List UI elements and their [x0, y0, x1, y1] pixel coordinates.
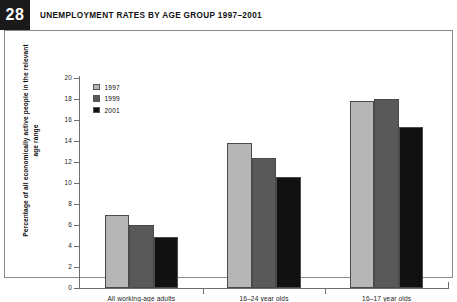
figure-header: 28 UNEMPLOYMENT RATES BY AGE GROUP 1997–… — [0, 0, 457, 30]
y-axis-tick-label-wrap: 14 — [46, 137, 72, 145]
y-axis-tick-label: 14 — [50, 137, 72, 144]
y-axis-tick-label: 8 — [50, 200, 72, 207]
chart-frame: Percentage of all economically active pe… — [4, 30, 453, 278]
y-axis-tick-label: 12 — [50, 158, 72, 165]
bar-all-working-age-adults-1999 — [129, 225, 154, 288]
x-axis-group-label: 16–24 year olds — [194, 295, 334, 302]
x-axis-separator-tick — [325, 288, 326, 294]
y-axis-tick-label: 10 — [50, 179, 72, 186]
bar-16–17-year-olds-1997 — [350, 101, 375, 288]
y-axis-tick-label: 18 — [50, 95, 72, 102]
x-axis-end-cap — [448, 282, 449, 289]
y-axis-tick-label: 0 — [50, 284, 72, 291]
x-axis-group-label: 16–17 year olds — [317, 295, 457, 302]
y-axis-tick-label: 4 — [50, 242, 72, 249]
bar-16–24-year-olds-1999 — [252, 158, 277, 288]
y-axis-tick-label: 16 — [50, 116, 72, 123]
bar-16–24-year-olds-2001 — [276, 177, 301, 288]
y-axis-tick-label-wrap: 18 — [46, 95, 72, 103]
y-axis-tick-label-wrap: 6 — [46, 221, 72, 229]
x-axis-start-cap — [79, 282, 80, 289]
y-axis-tick-label: 6 — [50, 221, 72, 228]
bar-16–24-year-olds-1997 — [227, 143, 252, 288]
y-axis-tick-label: 2 — [50, 263, 72, 270]
plot-area — [80, 78, 448, 288]
y-axis-tick-label-wrap: 0 — [46, 284, 72, 292]
y-axis-tick-label-wrap: 10 — [46, 179, 72, 187]
y-axis-tick-label-wrap: 4 — [46, 242, 72, 250]
y-axis-tick-label-wrap: 8 — [46, 200, 72, 208]
y-axis-tick-label-wrap: 12 — [46, 158, 72, 166]
x-axis-group-label: All working-age adults — [71, 295, 211, 302]
bar-all-working-age-adults-2001 — [154, 237, 179, 288]
y-axis-tick-label-wrap: 20 — [46, 74, 72, 82]
x-axis-separator-tick — [203, 288, 204, 294]
y-axis-tick-label-wrap: 16 — [46, 116, 72, 124]
bar-16–17-year-olds-2001 — [399, 127, 424, 288]
y-axis-tick-label: 20 — [50, 74, 72, 81]
page-title: UNEMPLOYMENT RATES BY AGE GROUP 1997–200… — [30, 0, 457, 30]
bar-all-working-age-adults-1997 — [105, 215, 130, 289]
y-axis-tick-label-wrap: 2 — [46, 263, 72, 271]
y-axis-title: Percentage of all economically active pe… — [21, 41, 40, 241]
x-axis-line — [79, 288, 449, 289]
bar-16–17-year-olds-1999 — [374, 99, 399, 288]
figure-number-badge: 28 — [0, 0, 30, 30]
